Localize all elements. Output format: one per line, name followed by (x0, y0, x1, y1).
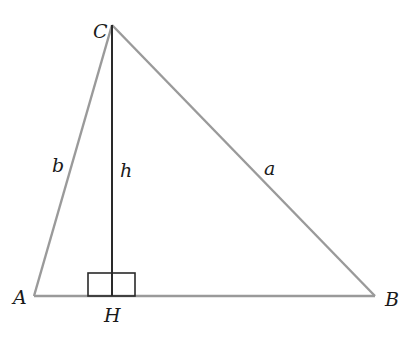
side-label-a: a (264, 157, 275, 179)
foot-label-h: H (103, 304, 121, 326)
side-a (112, 25, 375, 296)
triangle-diagram: C A B H b h a (0, 0, 411, 338)
side-label-b: b (52, 154, 64, 176)
vertex-label-a: A (11, 286, 27, 308)
vertex-label-b: B (384, 288, 399, 310)
altitude-label-h: h (120, 159, 132, 181)
vertex-label-c: C (93, 20, 108, 42)
side-b (34, 25, 112, 296)
